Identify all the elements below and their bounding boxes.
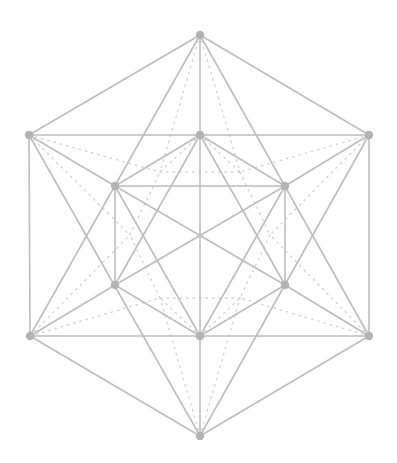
edge <box>29 135 115 186</box>
edge <box>200 336 369 436</box>
vertex-inner-upper-left <box>111 182 119 190</box>
visible-edges <box>29 35 369 436</box>
vertex-top <box>196 31 204 39</box>
vertex-upper-left <box>25 131 33 139</box>
vertex-lower-left <box>26 332 34 340</box>
vertex-lower-mid <box>196 332 204 340</box>
vertex-bottom <box>196 432 204 440</box>
edge <box>115 135 200 186</box>
vertex-lower-right <box>365 332 373 340</box>
edge <box>200 285 285 336</box>
hidden-edge <box>240 235 270 298</box>
edge <box>29 135 30 336</box>
vertex-upper-mid <box>196 131 204 139</box>
edge <box>200 35 369 135</box>
vertex-upper-right <box>365 131 373 139</box>
vertex-inner-lower-left <box>111 281 119 289</box>
vertex-inner-upper-right <box>281 182 289 190</box>
edge <box>285 135 369 186</box>
edge <box>30 285 115 336</box>
edge <box>29 35 200 135</box>
edge <box>30 336 200 436</box>
hidden-edge <box>130 235 160 298</box>
vertex-inner-lower-right <box>281 281 289 289</box>
polyhedron-diagram <box>0 0 397 463</box>
